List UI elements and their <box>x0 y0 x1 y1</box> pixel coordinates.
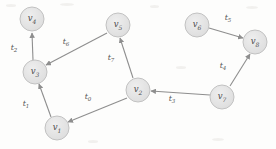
node-v1[interactable] <box>45 116 69 140</box>
edge-t1 <box>39 84 51 117</box>
node-v3[interactable] <box>23 60 47 84</box>
node-v2[interactable] <box>126 78 150 102</box>
graph-figure: v4 v3 v1 v5 v2 v6 v8 v7 t2 t6 t1 t0 t7 t… <box>0 0 276 149</box>
edge-t0 <box>68 98 127 122</box>
graph-canvas <box>0 0 276 149</box>
node-v7[interactable] <box>210 85 234 109</box>
edge-t3 <box>151 91 210 95</box>
node-v6[interactable] <box>185 13 209 37</box>
nodes-layer <box>20 7 267 140</box>
edge-t2 <box>32 33 33 60</box>
edge-t5 <box>209 28 243 38</box>
node-v4[interactable] <box>20 7 44 31</box>
edge-t4 <box>230 54 250 86</box>
node-v5[interactable] <box>106 13 130 37</box>
node-v8[interactable] <box>243 30 267 54</box>
edge-t7 <box>120 38 133 78</box>
edge-t6 <box>46 33 107 65</box>
